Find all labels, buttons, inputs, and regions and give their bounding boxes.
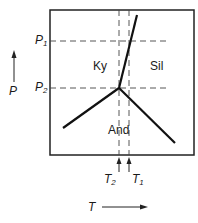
phase-diagram-graphic — [0, 0, 198, 223]
andalusite-field-label: And — [108, 124, 129, 136]
p1-label: P1 — [35, 34, 47, 48]
p-axis-label: P — [9, 85, 17, 97]
t1-arrow-head — [127, 157, 132, 164]
t2-arrow-head — [117, 157, 122, 164]
t-axis-arrow-head — [140, 205, 148, 210]
sillimanite-field-label: Sil — [150, 60, 163, 72]
p-axis-arrow-head — [12, 50, 17, 58]
ky-sil-boundary — [119, 15, 137, 88]
ky-and-boundary — [63, 88, 119, 128]
p2-label: P2 — [35, 81, 47, 95]
kyanite-field-label: Ky — [93, 60, 107, 72]
t-axis-label: T — [88, 201, 95, 213]
t2-label: T2 — [104, 173, 116, 187]
t1-label: T1 — [132, 173, 144, 187]
